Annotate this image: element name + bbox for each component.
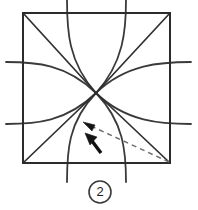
emphasis-pointer-arrow [85,133,101,153]
fold-direction-arrowhead-icon [83,122,95,131]
square-outline [23,13,170,163]
diagonal-group [23,13,170,163]
arc-right-lower-icon [96,93,191,124]
step-badge: 2 [89,181,111,203]
origami-figure: 2 [0,0,198,210]
step-badge-number: 2 [96,184,103,199]
emphasis-pointer-arrow-shaft [92,141,101,153]
diagonal-top-right-icon [95,13,170,94]
diagonal-bottom-right-icon [95,92,170,163]
diagonal-bottom-left-icon [23,92,97,163]
origami-diagram-canvas: 2 [0,0,198,210]
diagonal-top-left-icon [23,13,97,94]
fold-direction-arrow [83,122,169,162]
fold-direction-arrow-shaft [91,126,169,162]
